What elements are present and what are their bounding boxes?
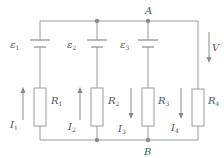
current-4-label: I4 <box>170 122 179 134</box>
junction-top-middle <box>95 19 99 23</box>
battery-2 <box>87 40 107 47</box>
resistor-3 <box>142 88 154 126</box>
battery-1 <box>30 40 50 47</box>
circuit-diagram: A B V ε1 ε2 ε3 R1 R2 R3 R4 I1 I2 I3 I4 <box>0 0 224 158</box>
resistor-1-label: R1 <box>50 95 62 107</box>
resistor-1 <box>34 88 46 126</box>
emf-1-label: ε1 <box>10 39 19 51</box>
current-1-label: I1 <box>9 119 18 131</box>
current-2-label: I2 <box>67 121 76 133</box>
node-b <box>146 138 150 142</box>
current-arrow-1 <box>21 87 26 120</box>
junction-bottom-middle <box>95 138 99 142</box>
node-a <box>146 19 150 23</box>
voltage-arrow <box>207 32 212 63</box>
emf-2-label: ε2 <box>67 39 76 51</box>
emf-3-label: ε3 <box>120 39 129 51</box>
resistor-4 <box>192 89 204 126</box>
resistor-2-label: R2 <box>107 95 120 107</box>
node-b-label: B <box>143 146 151 157</box>
current-arrow-3 <box>129 88 134 119</box>
resistor-2 <box>91 88 103 126</box>
resistor-3-label: R3 <box>157 95 170 107</box>
node-a-label: A <box>144 5 152 16</box>
current-arrow-2 <box>78 87 83 120</box>
current-3-label: I3 <box>117 123 126 135</box>
current-arrow-4 <box>179 88 184 119</box>
voltage-label: V <box>212 42 221 53</box>
battery-3 <box>138 40 158 47</box>
resistor-4-label: R4 <box>207 95 220 107</box>
